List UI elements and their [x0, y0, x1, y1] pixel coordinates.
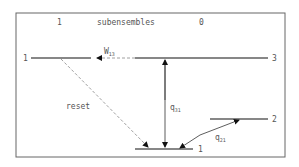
w13-subscript: 13: [109, 51, 115, 57]
q21-subscript: 21: [220, 137, 226, 143]
q31-subscript: 31: [175, 107, 181, 113]
reset-label: reset: [66, 102, 90, 111]
diagram-frame: [16, 13, 285, 157]
subensemble-left-label: 1: [57, 18, 62, 27]
level-2-label: 2: [272, 115, 277, 124]
q21-arrow-down: [180, 135, 200, 148]
subensemble-right-label: 0: [199, 18, 204, 27]
subensembles-title: subensembles: [97, 18, 155, 27]
q21-label: q21: [215, 133, 226, 143]
level-3-label: 3: [272, 54, 277, 63]
q31-label: q31: [170, 103, 181, 113]
level-1-label: 1: [198, 145, 203, 154]
w13-label: W13: [104, 47, 115, 57]
level-top-left-label: 1: [23, 54, 28, 63]
subensemble-diagram: 1 subensembles 0 1 3 W13 reset q31 2 q21…: [0, 0, 299, 167]
